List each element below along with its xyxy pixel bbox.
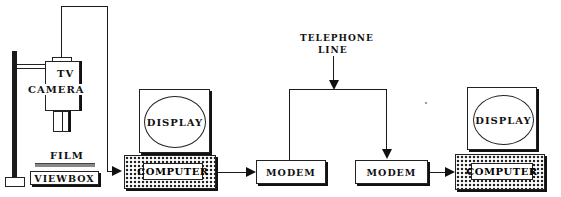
copy-stand-base	[5, 177, 25, 187]
viewbox: VIEWBOX	[30, 171, 99, 185]
telephone-line-right-leg	[386, 89, 387, 151]
tv-camera-lens	[53, 111, 69, 132]
film-sheet	[35, 163, 95, 167]
modem-right: MODEM	[355, 160, 428, 184]
connector-camera-down	[107, 6, 108, 171]
telephone-line-drop	[333, 56, 334, 82]
display-left-screen: DISPLAY	[144, 96, 206, 148]
viewbox-label: VIEWBOX	[34, 173, 94, 184]
display-right-screen: DISPLAY	[473, 95, 534, 145]
tv-camera-lens-divider	[62, 112, 63, 131]
computer-right-label: COMPUTER	[471, 163, 533, 180]
camera-arm	[17, 64, 45, 69]
telephone-line-left-leg	[289, 89, 290, 160]
modem-left-label: MODEM	[266, 167, 316, 178]
connector-computer-modem	[218, 172, 248, 173]
film-label: FILM	[50, 150, 84, 161]
display-right-label: DISPLAY	[475, 115, 532, 126]
tv-camera-label-line1: TV	[57, 68, 74, 79]
copy-stand-pole	[12, 51, 17, 178]
telephone-line-label-2: LINE	[318, 45, 348, 55]
connector-camera-top	[61, 6, 108, 7]
arrow-to-modem-left	[246, 167, 256, 177]
arrow-to-modem-right	[382, 149, 392, 159]
telephone-line-label-1: TELEPHONE	[300, 33, 374, 43]
telephone-line-bus	[289, 89, 387, 90]
modem-right-label: MODEM	[367, 167, 417, 178]
tv-camera-label-line2: CAMERA	[27, 84, 85, 95]
display-left-label: DISPLAY	[147, 117, 204, 128]
computer-left-label: COMPUTER	[143, 163, 203, 180]
arrow-to-computer-right	[445, 167, 455, 177]
speck	[425, 102, 427, 104]
arrow-to-computer-left	[112, 166, 122, 176]
modem-left: MODEM	[256, 160, 326, 184]
connector-camera-up	[61, 6, 62, 58]
